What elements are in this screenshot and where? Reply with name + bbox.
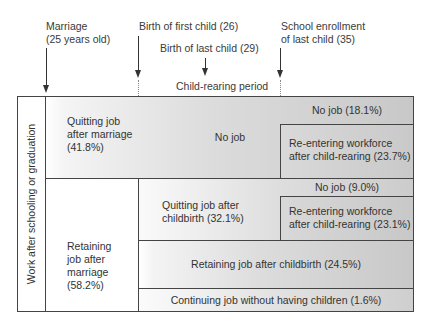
top-reenter-line1: Re-entering workforce [289, 137, 410, 150]
mid-reenter-label: Re-entering workforce after child-rearin… [289, 205, 410, 231]
last-child-label: Birth of last child (29) [160, 42, 259, 55]
first-child-label: Birth of first child (26) [139, 20, 238, 33]
child-rearing-period-label: Child-rearing period [176, 80, 268, 93]
quit-marriage-label: Quitting job after marriage (41.8%) [67, 115, 132, 154]
school-arrow-line [280, 48, 281, 72]
marriage-arrow-line [46, 48, 47, 88]
quit-childbirth-line2: childbirth (32.1%) [162, 212, 244, 225]
school-dotted-line [280, 80, 281, 96]
quit-marriage-line2: after marriage [67, 128, 132, 141]
marriage-line2: (25 years old) [46, 33, 110, 46]
last-child-arrow-icon [202, 68, 208, 76]
quit-childbirth-line1: Quitting job after [162, 199, 244, 212]
mid-reenter-line1: Re-entering workforce [289, 205, 410, 218]
first-child-arrow-line [138, 36, 139, 72]
retain-marriage-line4: (58.2%) [67, 279, 111, 292]
first-child-dotted-line [138, 80, 139, 96]
top-reenter-line2: after child-rearing (23.7%) [289, 150, 410, 163]
top-no-job-label: No job (18.1%) [280, 97, 414, 124]
school-enrollment-label: School enrollment of last child (35) [281, 20, 365, 46]
retain-marriage-line1: Retaining [67, 240, 111, 253]
continuing-label: Continuing job without having children (… [139, 289, 413, 311]
axis-label: Work after schooling or graduation [25, 124, 37, 284]
marriage-label: Marriage (25 years old) [46, 20, 110, 46]
quit-childbirth-label: Quitting job after childbirth (32.1%) [162, 199, 244, 225]
marriage-arrow-icon [43, 85, 49, 93]
quit-marriage-line1: Quitting job [67, 115, 132, 128]
marriage-line1: Marriage [46, 20, 110, 33]
mid-reenter-line2: after child-rearing (23.1%) [289, 218, 410, 231]
school-line2: of last child (35) [281, 33, 365, 46]
retain-childbirth-label: Retaining job after childbirth (24.5%) [138, 241, 414, 288]
school-arrow-icon [277, 70, 283, 78]
no-job-center-label: No job [200, 130, 260, 144]
retain-marriage-line3: marriage [67, 266, 111, 279]
first-child-arrow-icon [135, 70, 141, 78]
retain-marriage-line2: job after [67, 253, 111, 266]
school-line1: School enrollment [281, 20, 365, 33]
mid-reenter-box: Re-entering workforce after child-rearin… [280, 196, 414, 241]
axis-label-container: Work after schooling or graduation [17, 96, 45, 312]
top-reenter-label: Re-entering workforce after child-rearin… [289, 137, 410, 163]
continuing-box: Continuing job without having children (… [138, 288, 414, 312]
mid-no-job-label: No job (9.0%) [280, 179, 414, 196]
retain-marriage-label: Retaining job after marriage (58.2%) [67, 240, 111, 292]
quit-marriage-line3: (41.8%) [67, 141, 132, 154]
top-reenter-box: Re-entering workforce after child-rearin… [280, 124, 414, 179]
